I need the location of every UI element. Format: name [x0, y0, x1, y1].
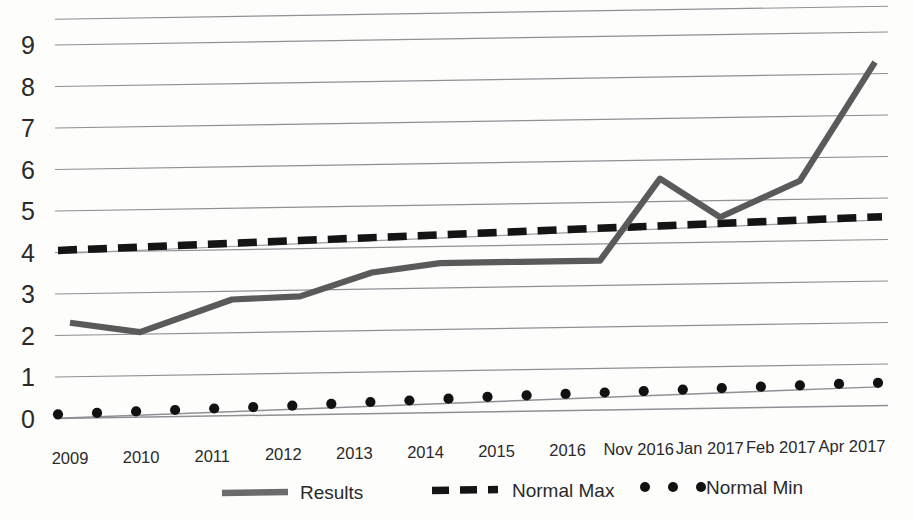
gridlines-group	[55, 6, 888, 418]
y-axis-tick-labels: 9876543210	[21, 31, 35, 433]
normal-min-dot	[248, 402, 258, 412]
normal-min-dot	[443, 394, 453, 404]
legend-dot-normal-min	[696, 482, 706, 492]
normal-min-dot	[92, 408, 102, 418]
gridline-9	[55, 32, 888, 45]
x-tick-label-apr-2017: Apr 2017	[819, 437, 886, 455]
normal-max-dashed-line	[58, 217, 882, 251]
y-tick-label-0: 0	[21, 405, 35, 433]
gridline-top	[55, 6, 888, 19]
y-tick-label-7: 7	[21, 114, 35, 142]
line-chart: 9876543210 20092010201120122013201420152…	[0, 0, 913, 520]
legend-swatch-normal-max	[432, 490, 498, 491]
gridline-8	[55, 74, 888, 87]
gridline-7	[55, 115, 888, 128]
gridline-2	[55, 323, 888, 336]
legend-dot-normal-min	[640, 482, 650, 492]
normal-min-dot	[131, 406, 141, 416]
x-tick-label-2010: 2010	[123, 448, 160, 466]
y-tick-label-6: 6	[21, 156, 35, 184]
legend-dot-normal-min	[668, 482, 678, 492]
normal-min-dot	[326, 399, 336, 409]
legend-swatch-results	[222, 492, 288, 493]
x-tick-label-2011: 2011	[194, 447, 229, 465]
x-tick-label-2014: 2014	[407, 443, 444, 461]
y-tick-label-5: 5	[21, 197, 35, 225]
legend-label-normal-min: Normal Min	[706, 477, 803, 498]
gridline-3	[55, 281, 888, 294]
normal-min-dot	[600, 387, 610, 397]
normal-min-dot	[522, 390, 532, 400]
x-tick-label-2009: 2009	[52, 449, 89, 467]
x-tick-label-2015: 2015	[478, 442, 515, 460]
normal-min-dot	[53, 409, 63, 419]
normal-min-dot	[678, 385, 688, 395]
normal-min-dot	[482, 392, 492, 402]
normal-min-dot	[209, 403, 219, 413]
normal-min-dot	[365, 397, 375, 407]
gridline-6	[55, 157, 888, 170]
normal-min-dot	[834, 379, 844, 389]
normal-min-dot	[561, 389, 571, 399]
chart-container: 9876543210 20092010201120122013201420152…	[0, 0, 913, 520]
x-tick-label-nov-2016: Nov 2016	[603, 440, 674, 458]
normal-min-baseline	[58, 387, 878, 418]
x-axis-tick-labels: 20092010201120122013201420152016Nov 2016…	[52, 437, 886, 467]
normal-min-dot	[756, 382, 766, 392]
x-tick-label-2012: 2012	[265, 445, 302, 463]
y-tick-label-8: 8	[21, 73, 35, 101]
y-tick-label-4: 4	[21, 239, 35, 267]
normal-min-dot	[287, 401, 297, 411]
gridline-1	[55, 364, 888, 377]
normal-min-dot	[873, 378, 883, 388]
series-normal-max	[58, 217, 882, 254]
normal-min-dot	[404, 395, 414, 405]
normal-min-dot	[170, 405, 180, 415]
x-tick-label-feb-2017: Feb 2017	[746, 438, 816, 456]
gridline-0	[55, 406, 888, 419]
normal-min-dot	[717, 383, 727, 393]
normal-min-dot	[639, 386, 649, 396]
chart-legend: ResultsNormal MaxNormal Min	[222, 477, 803, 503]
x-tick-label-2013: 2013	[336, 444, 373, 462]
y-tick-label-9: 9	[21, 31, 35, 59]
x-tick-label-jan-2017: Jan 2017	[676, 439, 744, 457]
legend-label-results: Results	[300, 482, 363, 503]
series-normal-min	[53, 378, 883, 420]
legend-label-normal-max: Normal Max	[512, 480, 615, 501]
y-tick-label-3: 3	[21, 280, 35, 308]
y-tick-label-2: 2	[21, 322, 35, 350]
x-tick-label-2016: 2016	[549, 441, 586, 459]
y-tick-label-1: 1	[21, 363, 35, 391]
normal-min-dot	[795, 380, 805, 390]
